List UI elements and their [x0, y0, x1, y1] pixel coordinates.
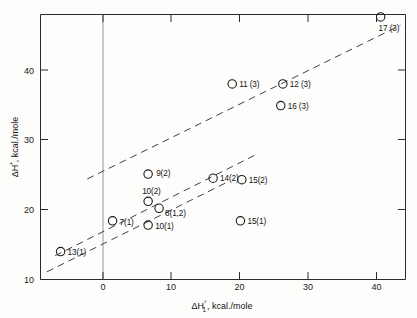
- data-point-label: 10(1): [155, 222, 174, 231]
- x-tick-label: 10: [166, 282, 176, 292]
- plot-canvas: 0 10 20 30 40 10 20 30 40 ΔH°1, kcal./mo…: [0, 0, 417, 318]
- data-point-label: 16 (3): [288, 102, 309, 111]
- data-point[interactable]: 17 (3): [376, 13, 399, 33]
- data-point-label: 8(1,2): [165, 209, 186, 218]
- x-axis-units: , kcal./mole: [207, 301, 253, 311]
- x-axis-title: ΔH°1, kcal./mole: [191, 300, 252, 314]
- data-point-marker[interactable]: [238, 175, 246, 183]
- x-tick-label: 20: [234, 282, 244, 292]
- data-point-label: 17 (3): [379, 24, 400, 33]
- data-point-marker[interactable]: [144, 221, 152, 229]
- data-point-label: 15(2): [249, 176, 268, 185]
- data-point-marker[interactable]: [236, 217, 244, 225]
- data-point[interactable]: 10(2): [142, 187, 161, 205]
- data-point-marker[interactable]: [108, 217, 116, 225]
- svg-text:ΔH°1, kcal./mole: ΔH°1, kcal./mole: [191, 300, 252, 314]
- data-point[interactable]: 9(2): [144, 169, 171, 178]
- trend-lines-group: [47, 25, 400, 272]
- data-point[interactable]: 11 (3): [228, 80, 260, 89]
- data-point-label: 7(1): [120, 218, 135, 227]
- y-axis-title: ΔH*, kcal./mole: [9, 117, 21, 177]
- data-point-marker[interactable]: [279, 80, 287, 88]
- upper-correlation-line: [87, 25, 400, 179]
- data-point[interactable]: 14(2): [209, 174, 239, 183]
- data-point-label: 12 (3): [290, 80, 311, 89]
- data-point-label: 14(2): [220, 174, 239, 183]
- data-point-label: 11 (3): [239, 80, 260, 89]
- x-tick-label: 30: [303, 282, 313, 292]
- data-point[interactable]: 7(1): [108, 217, 134, 227]
- data-point-marker[interactable]: [209, 174, 217, 182]
- data-point-marker[interactable]: [155, 204, 163, 212]
- data-point-label: 15(1): [247, 217, 266, 226]
- data-point-marker[interactable]: [144, 170, 152, 178]
- data-point-label: 13(1): [68, 248, 87, 257]
- data-point[interactable]: 15(2): [238, 175, 268, 184]
- data-point-marker[interactable]: [144, 197, 152, 205]
- data-point[interactable]: 10(1): [144, 221, 174, 231]
- data-point-marker[interactable]: [376, 13, 384, 21]
- x-axis-ticks: [103, 15, 377, 280]
- y-tick-label: 40: [24, 66, 34, 76]
- x-axis-subscript: 1: [203, 306, 207, 313]
- data-point-label: 10(2): [142, 187, 161, 196]
- svg-text:ΔH*, kcal./mole: ΔH*, kcal./mole: [9, 117, 21, 177]
- x-tick-labels: 0 10 20 30 40: [100, 282, 381, 292]
- data-point-marker[interactable]: [277, 101, 285, 109]
- y-tick-label: 20: [24, 205, 34, 215]
- scatter-plot-figure: 0 10 20 30 40 10 20 30 40 ΔH°1, kcal./mo…: [0, 0, 417, 318]
- data-point[interactable]: 13(1): [56, 247, 86, 256]
- x-tick-label: 40: [371, 282, 381, 292]
- data-point[interactable]: 12 (3): [279, 80, 311, 89]
- data-point[interactable]: 15(1): [236, 217, 266, 226]
- x-tick-label: 0: [100, 282, 105, 292]
- y-axis-units: , kcal./mole: [10, 117, 20, 163]
- data-point[interactable]: 16 (3): [277, 101, 309, 110]
- data-points-group: 13(1)7(1)10(2)10(1)9(2)8(1,2)14(2)15(2)1…: [56, 13, 399, 257]
- data-point-marker[interactable]: [228, 80, 236, 88]
- plot-frame: [41, 15, 406, 280]
- y-tick-label: 30: [24, 135, 34, 145]
- y-tick-label-bottom: 10: [24, 275, 34, 285]
- data-point-marker[interactable]: [56, 247, 64, 255]
- y-tick-labels: 10 20 30 40: [24, 66, 34, 286]
- frame-border: [41, 15, 406, 280]
- data-point-label: 9(2): [156, 169, 171, 178]
- lower-correlation-line: [47, 182, 228, 272]
